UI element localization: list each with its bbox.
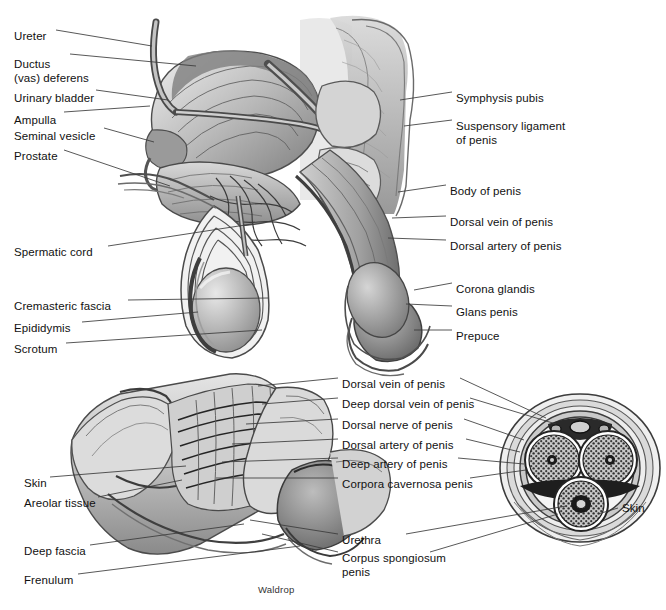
upper-panel-illustration [118, 16, 430, 376]
label-ureter: Ureter [14, 30, 47, 44]
label-dorsal-vein-of-penis-lower: Dorsal vein of penis [342, 378, 445, 392]
label-epididymis: Epididymis [14, 322, 71, 336]
label-corona-glandis: Corona glandis [456, 283, 535, 297]
label-dorsal-artery-of-penis-lower: Dorsal artery of penis [342, 439, 454, 453]
label-corpus-spongiosum-penis: Corpus spongiosum penis [342, 552, 446, 579]
label-ductus-deferens: Ductus (vas) deferens [14, 58, 89, 85]
artist-signature: Waldrop [258, 584, 294, 595]
label-deep-dorsal-vein-of-penis: Deep dorsal vein of penis [342, 398, 474, 412]
label-dorsal-nerve-of-penis: Dorsal nerve of penis [342, 419, 453, 433]
label-cremasteric-fascia: Cremasteric fascia [14, 300, 111, 314]
label-skin: Skin [24, 477, 47, 491]
label-symphysis-pubis: Symphysis pubis [456, 92, 544, 106]
label-deep-artery-of-penis: Deep artery of penis [342, 458, 448, 472]
label-ampulla: Ampulla [14, 114, 56, 128]
label-suspensory-ligament-of-penis: Suspensory ligament of penis [456, 120, 565, 147]
label-prostate: Prostate [14, 150, 58, 164]
label-body-of-penis: Body of penis [450, 185, 521, 199]
label-prepuce: Prepuce [456, 330, 500, 344]
label-scrotum: Scrotum [14, 343, 58, 357]
label-skin-cross-section: Skin [622, 502, 645, 516]
label-dorsal-vein-of-penis-upper: Dorsal vein of penis [450, 216, 553, 230]
label-glans-penis: Glans penis [456, 306, 518, 320]
label-urinary-bladder: Urinary bladder [14, 92, 94, 106]
label-dorsal-artery-of-penis-upper: Dorsal artery of penis [450, 240, 562, 254]
label-deep-fascia: Deep fascia [24, 545, 86, 559]
label-urethra: Urethra [342, 534, 381, 548]
label-spermatic-cord: Spermatic cord [14, 246, 93, 260]
label-seminal-vesicle: Seminal vesicle [14, 130, 95, 144]
label-corpora-cavernosa-penis: Corpora cavernosa penis [342, 478, 473, 492]
label-frenulum: Frenulum [24, 574, 73, 588]
label-areolar-tissue: Areolar tissue [24, 497, 96, 511]
